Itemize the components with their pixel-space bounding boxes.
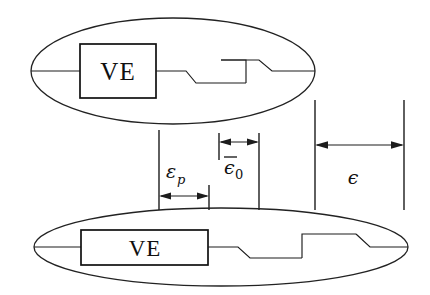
- top-slider-channel: [221, 60, 315, 71]
- dim-label-eps-bar-0-symbol: ϵ: [224, 156, 235, 178]
- dim-label-eps-p-symbol: ε: [166, 160, 176, 182]
- dim-label-eps-p-subscript: p: [177, 172, 186, 187]
- arrowhead-eps-bar-0-left: [219, 139, 231, 146]
- dimension-eps-total: ϵ: [315, 141, 404, 188]
- figure-canvas: VE ε p: [0, 0, 430, 295]
- dim-label-eps-p: ε p: [166, 160, 186, 187]
- arrowhead-eps-p-right: [197, 193, 209, 200]
- dim-label-eps-bar-0: ϵ 0: [224, 156, 243, 182]
- top-body-group: VE: [31, 18, 315, 124]
- dimension-eps-bar-0: ϵ 0: [219, 139, 259, 183]
- extension-lines-group: [159, 100, 404, 210]
- dim-label-eps-total-symbol: ϵ: [348, 166, 359, 188]
- top-slider-element: [221, 60, 246, 83]
- bottom-slider-element: [302, 234, 356, 258]
- dim-label-eps-bar-0-subscript: 0: [235, 167, 243, 182]
- bottom-ve-box-label: VE: [129, 236, 162, 261]
- arrowhead-eps-p-left: [159, 193, 171, 200]
- arrowhead-eps-bar-0-right: [247, 139, 259, 146]
- bottom-body-group: VE: [34, 208, 408, 286]
- dimension-eps-p: ε p: [159, 160, 209, 200]
- top-ve-box-label: VE: [100, 58, 135, 85]
- bottom-right-connector-line: [208, 247, 302, 258]
- figure-root: VE ε p: [0, 0, 430, 295]
- arrowhead-eps-total-right: [391, 141, 404, 148]
- top-right-connector-line: [156, 71, 246, 83]
- arrowhead-eps-total-left: [315, 141, 328, 148]
